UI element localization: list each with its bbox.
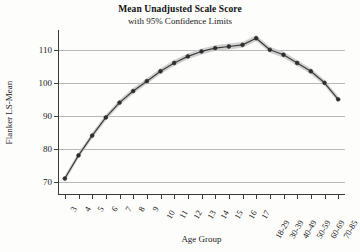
data-point-marker [186, 55, 190, 59]
x-tick-mark [215, 195, 216, 199]
data-point-marker [145, 79, 149, 83]
data-point-marker [254, 36, 258, 40]
data-point-marker [213, 46, 217, 50]
data-point-marker [90, 134, 94, 138]
data-point-marker [309, 69, 313, 73]
data-point-marker [268, 48, 272, 52]
x-tick-mark [256, 195, 257, 199]
chart-title: Mean Unadjusted Scale Score [0, 3, 360, 15]
x-tick-label: 6 [111, 201, 122, 210]
plot-area: 708090100110 3456789101112131415161718-2… [58, 30, 345, 195]
x-tick-mark [106, 195, 107, 199]
data-point-marker [241, 43, 245, 47]
x-tick-mark [284, 195, 285, 199]
y-tick-label: 110 [39, 45, 52, 55]
x-tick-mark [270, 195, 271, 199]
data-point-marker [227, 45, 231, 49]
data-series-flanker-ls-mean [58, 30, 345, 195]
data-point-marker [131, 89, 135, 93]
x-tick-label: 4 [84, 201, 95, 210]
x-tick-label: 8 [138, 201, 149, 210]
data-point-marker [159, 69, 163, 73]
data-point-marker [63, 177, 67, 181]
x-tick-label: 7 [125, 201, 136, 210]
data-point-marker [77, 154, 81, 158]
x-axis-title: Age Group [58, 234, 345, 244]
y-axis-title: Flanker LS-Mean [4, 30, 18, 195]
x-tick-mark [311, 195, 312, 199]
x-tick-label: 5 [97, 201, 108, 210]
x-tick-mark [243, 195, 244, 199]
y-tick-label: 90 [43, 111, 52, 121]
chart-subtitle: with 95% Confidence Limits [0, 15, 360, 27]
x-tick-mark [338, 195, 339, 199]
y-tick-label: 80 [43, 144, 52, 154]
x-tick-mark [229, 195, 230, 199]
x-tick-mark [92, 195, 93, 199]
data-point-marker [282, 53, 286, 57]
x-tick-mark [297, 195, 298, 199]
x-tick-mark [202, 195, 203, 199]
data-point-marker [336, 97, 340, 101]
title-block: Mean Unadjusted Scale Score with 95% Con… [0, 3, 360, 27]
data-point-marker [323, 81, 327, 85]
data-point-marker [200, 50, 204, 54]
x-tick-mark [133, 195, 134, 199]
confidence-band [65, 35, 338, 181]
data-point-marker [104, 116, 108, 120]
y-tick-label: 100 [39, 78, 53, 88]
x-tick-mark [120, 195, 121, 199]
chart-figure: Mean Unadjusted Scale Score with 95% Con… [0, 0, 360, 252]
series-line [65, 38, 338, 178]
x-tick-mark [325, 195, 326, 199]
x-tick-label: 3 [70, 201, 81, 210]
x-tick-mark [79, 195, 80, 199]
data-point-marker [295, 61, 299, 65]
x-tick-mark [147, 195, 148, 199]
x-tick-mark [174, 195, 175, 199]
x-tick-label: 17 [263, 201, 276, 213]
x-tick-label: 9 [152, 201, 163, 210]
y-tick-label: 70 [43, 177, 52, 187]
data-point-marker [172, 61, 176, 65]
x-tick-mark [188, 195, 189, 199]
data-point-marker [118, 101, 122, 105]
x-tick-mark [161, 195, 162, 199]
x-tick-mark [65, 195, 66, 199]
